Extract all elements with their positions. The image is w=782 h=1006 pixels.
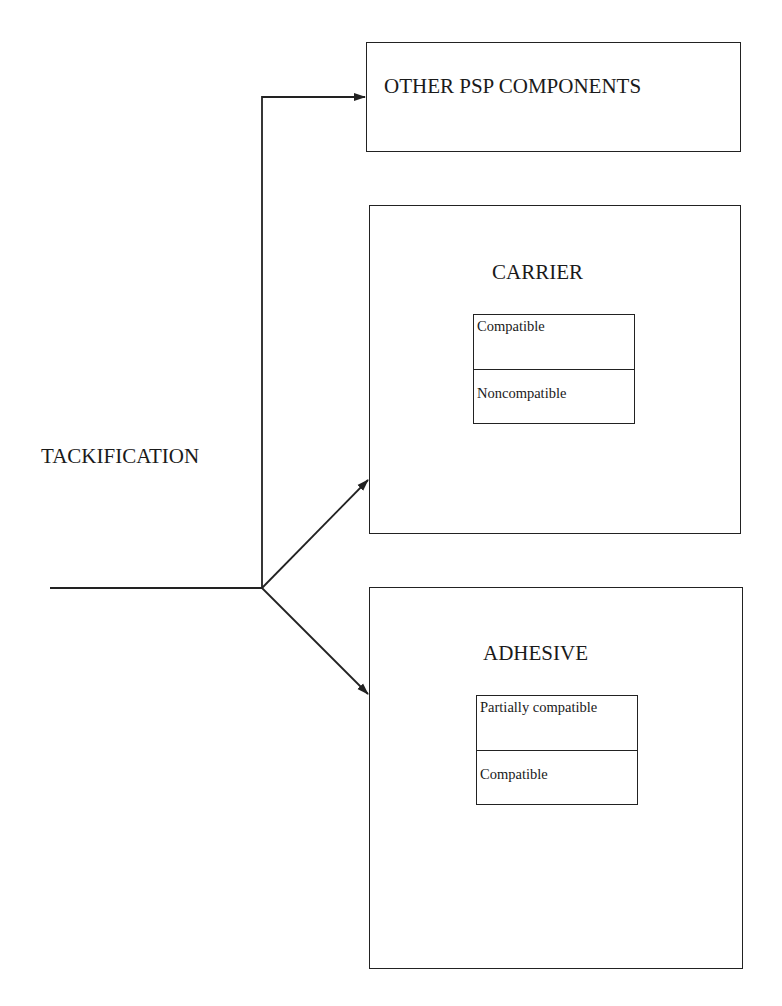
adhesive-properties-table: Partially compatible Compatible <box>476 695 638 805</box>
adhesive-property-partially-compatible: Partially compatible <box>477 699 637 751</box>
carrier-title: CARRIER <box>492 260 583 285</box>
arrow-to-other-components <box>262 97 365 588</box>
other-psp-components-title: OTHER PSP COMPONENTS <box>384 74 641 99</box>
adhesive-property-compatible: Compatible <box>477 766 637 783</box>
carrier-properties-table: Compatible Noncompatible <box>473 314 635 424</box>
adhesive-title: ADHESIVE <box>483 641 588 666</box>
carrier-property-compatible: Compatible <box>474 318 634 370</box>
carrier-box: CARRIER Compatible Noncompatible <box>369 205 741 534</box>
arrow-to-adhesive <box>262 588 368 694</box>
adhesive-box: ADHESIVE Partially compatible Compatible <box>369 587 743 969</box>
carrier-property-noncompatible: Noncompatible <box>474 385 634 402</box>
other-psp-components-box: OTHER PSP COMPONENTS <box>366 42 741 152</box>
tackification-label: TACKIFICATION <box>41 444 199 469</box>
arrow-to-carrier <box>262 480 368 588</box>
